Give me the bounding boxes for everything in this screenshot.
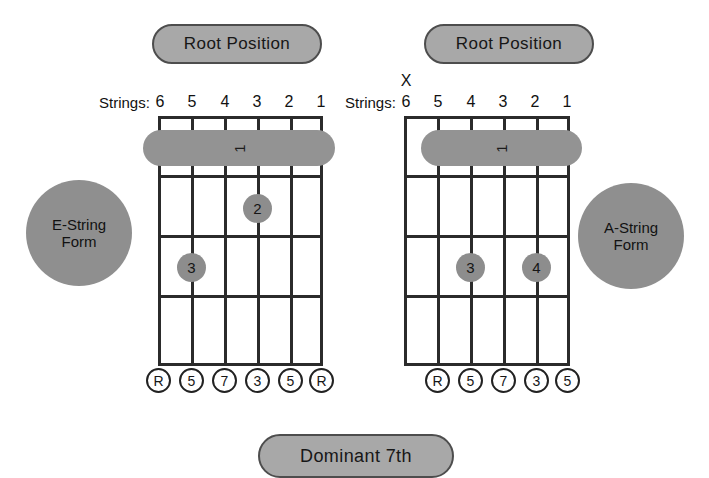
interval-right-4: 5 [458, 368, 483, 393]
fret-line-nut-right [404, 116, 570, 119]
interval-left-1: R [309, 368, 334, 393]
barre-right-fret-1: 1 [421, 130, 582, 166]
banner-root-position-right: Root Position [424, 24, 594, 64]
string-number-right-6: 6 [398, 93, 414, 111]
string-line-right-6 [404, 116, 407, 366]
barre-left-finger-number: 1 [231, 144, 248, 152]
fret-line-1-right [404, 175, 570, 178]
interval-left-5: 5 [179, 368, 204, 393]
banner-right-label: Root Position [456, 34, 562, 54]
interval-left-6: R [146, 368, 171, 393]
finger-dot-right-4: 4 [522, 253, 551, 282]
strings-label-right: Strings: [345, 94, 396, 111]
string-number-right-3: 3 [495, 93, 511, 111]
banner-root-position-left: Root Position [152, 24, 322, 64]
strings-label-left: Strings: [99, 94, 150, 111]
form-badge-e-string-line1: E-String [52, 216, 106, 233]
form-badge-a-string: A-String Form [578, 183, 684, 289]
string-number-right-2: 2 [527, 93, 543, 111]
muted-string-marker-right-6: X [398, 72, 414, 90]
interval-right-2: 3 [524, 368, 549, 393]
form-badge-a-string-line1: A-String [604, 219, 658, 236]
interval-right-3: 7 [491, 368, 516, 393]
fret-line-nut-left [158, 116, 323, 119]
form-badge-e-string: E-String Form [26, 180, 132, 286]
fret-line-3-right [404, 295, 570, 298]
finger-dot-left-2: 2 [243, 194, 272, 223]
interval-right-1: 5 [555, 368, 580, 393]
string-number-left-1: 1 [313, 93, 329, 111]
fret-line-1-left [158, 175, 323, 178]
finger-dot-left-3: 3 [177, 253, 206, 282]
barre-left-fret-1: 1 [143, 130, 335, 166]
fret-line-3-left [158, 295, 323, 298]
finger-dot-right-3: 3 [456, 253, 485, 282]
fret-line-4-right [404, 363, 570, 366]
banner-dominant-7th: Dominant 7th [258, 434, 454, 478]
form-badge-e-string-line2: Form [62, 233, 97, 250]
string-number-left-6: 6 [152, 93, 168, 111]
banner-left-label: Root Position [184, 34, 290, 54]
string-number-left-2: 2 [281, 93, 297, 111]
fret-line-2-right [404, 235, 570, 238]
string-number-right-1: 1 [559, 93, 575, 111]
interval-left-2: 5 [278, 368, 303, 393]
string-number-right-4: 4 [463, 93, 479, 111]
interval-left-4: 7 [212, 368, 237, 393]
string-number-left-3: 3 [249, 93, 265, 111]
barre-right-finger-number: 1 [493, 144, 510, 152]
fret-line-2-left [158, 235, 323, 238]
string-number-left-4: 4 [217, 93, 233, 111]
fret-line-4-left [158, 363, 323, 366]
form-badge-a-string-line2: Form [614, 236, 649, 253]
banner-bottom-label: Dominant 7th [300, 446, 412, 467]
string-number-right-5: 5 [430, 93, 446, 111]
interval-right-5: R [425, 368, 450, 393]
interval-left-3: 3 [245, 368, 270, 393]
string-number-left-5: 5 [184, 93, 200, 111]
